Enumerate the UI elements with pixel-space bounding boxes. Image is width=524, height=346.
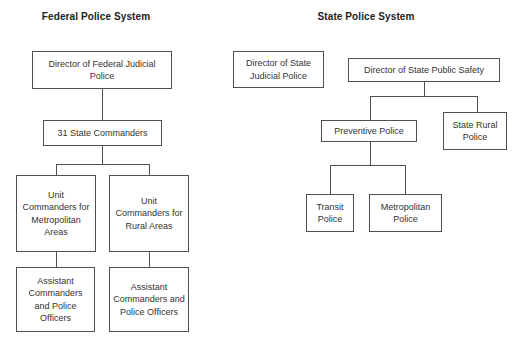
node-preventive-police: Preventive Police bbox=[321, 120, 417, 142]
node-director-federal-judicial-police: Director of Federal Judicial Police bbox=[32, 51, 172, 89]
connector-state-safety-stem bbox=[424, 82, 425, 97]
connector-federal-commanders-stem bbox=[102, 146, 103, 164]
node-metropolitan-police: Metropolitan Police bbox=[369, 194, 442, 232]
node-assistant-commanders-rural: Assistant Commanders and Police Officers bbox=[109, 267, 189, 332]
node-director-state-judicial-police: Director of State Judicial Police bbox=[233, 51, 324, 88]
federal-tree-title: Federal Police System bbox=[16, 11, 176, 23]
node-31-state-commanders: 31 State Commanders bbox=[43, 120, 162, 146]
node-unit-commanders-metropolitan: Unit Commanders for Metropolitan Areas bbox=[16, 175, 96, 252]
node-state-rural-police: State Rural Police bbox=[443, 112, 507, 150]
connector-state-drop-preventive bbox=[370, 96, 371, 120]
connector-federal-rural-to-assistant bbox=[149, 252, 150, 267]
node-transit-police: Transit Police bbox=[306, 194, 354, 232]
connector-state-drop-rural bbox=[477, 96, 478, 112]
connector-state-branch-bar-1 bbox=[370, 96, 477, 97]
connector-state-preventive-stem bbox=[370, 142, 371, 165]
node-unit-commanders-rural: Unit Commanders for Rural Areas bbox=[109, 175, 189, 252]
connector-federal-drop-rural bbox=[149, 164, 150, 175]
org-chart-figure: Federal Police System Director of Federa… bbox=[0, 0, 524, 346]
connector-state-drop-transit bbox=[330, 165, 331, 194]
node-director-state-public-safety: Director of State Public Safety bbox=[348, 58, 500, 82]
connector-federal-metro-to-assistant bbox=[56, 252, 57, 267]
connector-state-drop-metropolitan bbox=[405, 165, 406, 194]
state-tree-title: State Police System bbox=[286, 11, 446, 23]
node-assistant-commanders-metropolitan: Assistant Commanders and Police Officers bbox=[16, 267, 95, 332]
connector-federal-director-to-commanders bbox=[102, 89, 103, 120]
connector-state-branch-bar-2 bbox=[330, 165, 406, 166]
connector-federal-drop-metro bbox=[56, 164, 57, 175]
connector-federal-branch-bar bbox=[56, 164, 150, 165]
